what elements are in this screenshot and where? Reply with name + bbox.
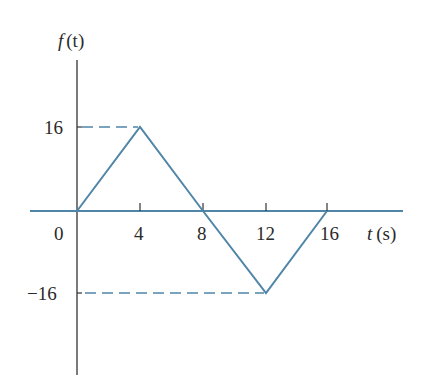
chart: f(t) 16 −16 0 4 8 12 16 t(s) xyxy=(0,0,425,385)
xtick-label-8: 8 xyxy=(197,223,207,244)
xtick-label-0: 0 xyxy=(54,223,64,244)
x-ticks xyxy=(140,203,327,211)
y-label: f(t) xyxy=(58,30,84,52)
xtick-label-16: 16 xyxy=(320,223,339,244)
xtick-label-12: 12 xyxy=(256,223,275,244)
ytick-label-pos: 16 xyxy=(44,117,63,138)
x-label: t(s) xyxy=(367,223,396,245)
ytick-label-neg: −16 xyxy=(27,283,57,304)
chart-svg: f(t) 16 −16 0 4 8 12 16 t(s) xyxy=(0,0,425,385)
xtick-label-4: 4 xyxy=(134,223,144,244)
